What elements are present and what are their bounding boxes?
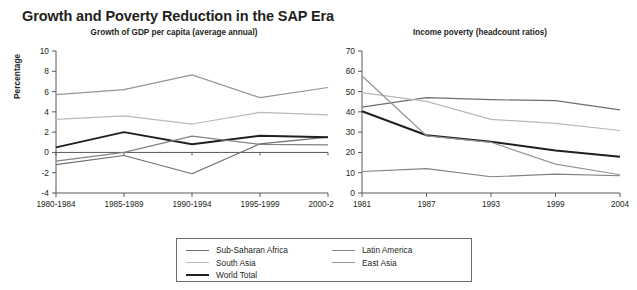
svg-text:20: 20 [346, 147, 356, 157]
legend-swatch [332, 250, 355, 251]
legend-column-right: Latin AmericaEast Asia [332, 244, 412, 269]
legend-item: World Total [186, 269, 288, 282]
svg-text:1999: 1999 [546, 200, 565, 209]
legend-swatch [186, 262, 209, 263]
svg-text:2: 2 [44, 127, 49, 137]
svg-text:50: 50 [346, 87, 356, 97]
page-title: Growth and Poverty Reduction in the SAP … [22, 8, 334, 24]
svg-text:-2: -2 [42, 168, 50, 178]
svg-text:1981: 1981 [353, 200, 372, 209]
svg-text:1985-1989: 1985-1989 [104, 200, 144, 209]
legend-swatch [186, 250, 209, 251]
svg-text:30: 30 [346, 127, 356, 137]
chart-title-poverty: Income poverty (headcount ratios) [330, 28, 630, 37]
chart-title-growth: Growth of GDP per capita (average annual… [14, 28, 334, 37]
svg-text:70: 70 [346, 46, 356, 56]
svg-text:40: 40 [346, 107, 356, 117]
legend-swatch [332, 262, 355, 263]
legend-item: East Asia [332, 257, 412, 270]
legend-label: Latin America [362, 246, 412, 254]
legend-item: South Asia [186, 257, 288, 270]
chart-svg-poverty: 01020304050607019811987199319992004 [330, 43, 630, 215]
svg-text:1987: 1987 [417, 200, 436, 209]
svg-text:1980-1984: 1980-1984 [36, 200, 76, 209]
svg-text:4: 4 [44, 107, 49, 117]
legend-label: East Asia [362, 259, 397, 267]
legend-item: Sub-Saharan Africa [186, 244, 288, 257]
legend-swatch [186, 274, 209, 276]
svg-text:2004: 2004 [611, 200, 630, 209]
svg-text:6: 6 [44, 87, 49, 97]
chart-panel-poverty: Income poverty (headcount ratios) 010203… [330, 28, 630, 215]
legend-column-left: Sub-Saharan AfricaSouth AsiaWorld Total [186, 244, 288, 282]
svg-text:0: 0 [44, 147, 49, 157]
svg-text:1990-1994: 1990-1994 [172, 200, 212, 209]
chart-svg-growth: -4-202468101980-19841985-19891990-199419… [14, 43, 334, 215]
svg-text:1995-1999: 1995-1999 [240, 200, 280, 209]
chart-legend: Sub-Saharan AfricaSouth AsiaWorld Total … [176, 238, 472, 282]
legend-label: World Total [216, 271, 257, 279]
svg-text:-4: -4 [42, 188, 50, 198]
plot-area-growth: Percentage -4-202468101980-19841985-1989… [14, 43, 334, 215]
legend-item: Latin America [332, 244, 412, 257]
svg-text:10: 10 [346, 168, 356, 178]
legend-label: Sub-Saharan Africa [216, 246, 288, 254]
chart-panel-growth: Growth of GDP per capita (average annual… [14, 28, 334, 215]
svg-text:60: 60 [346, 66, 356, 76]
plot-area-poverty: 01020304050607019811987199319992004 [330, 43, 630, 215]
y-axis-label-growth: Percentage [12, 54, 22, 99]
svg-text:8: 8 [44, 66, 49, 76]
legend-label: South Asia [216, 259, 256, 267]
svg-text:0: 0 [350, 188, 355, 198]
svg-text:10: 10 [40, 46, 50, 56]
svg-text:1993: 1993 [482, 200, 501, 209]
